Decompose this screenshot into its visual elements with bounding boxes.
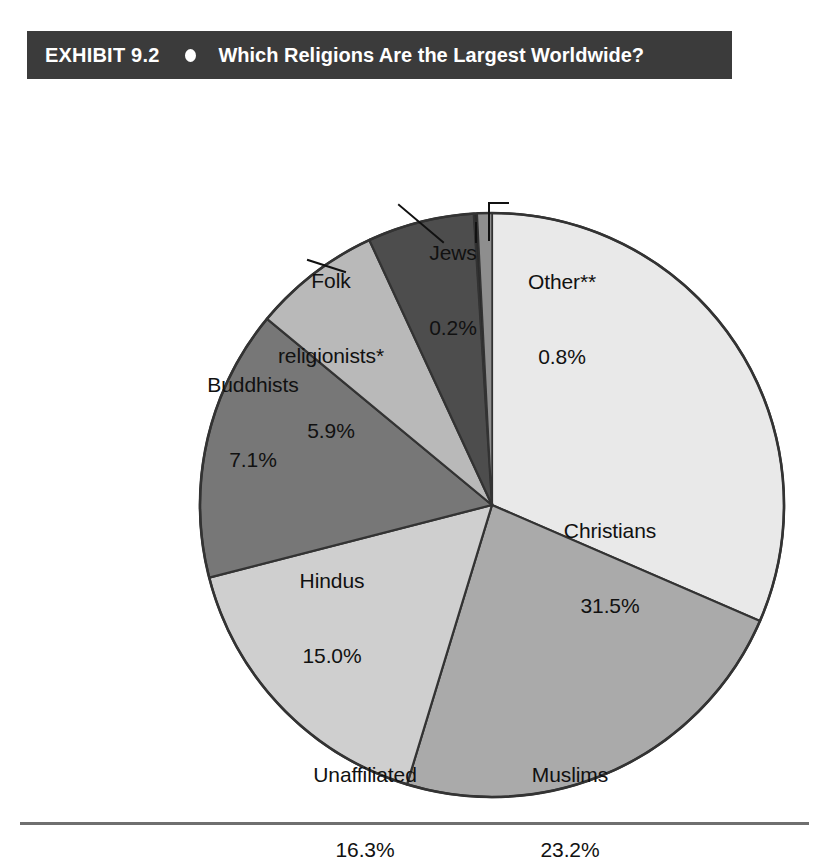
pie-label-muslims-value: 23.2% <box>500 837 640 861</box>
pie-label-unaffiliated-value: 16.3% <box>275 837 455 861</box>
pie-label-other: Other** 0.8% <box>502 219 622 419</box>
exhibit-number: EXHIBIT 9.2 <box>45 44 159 67</box>
exhibit-title: Which Religions Are the Largest Worldwid… <box>218 44 644 67</box>
pie-label-folk-religionists-line1: Folk <box>262 268 400 293</box>
pie-label-jews: Jews 0.2% <box>398 190 508 390</box>
exhibit-banner: EXHIBIT 9.2 Which Religions Are the Larg… <box>27 31 732 79</box>
pie-label-buddhists-name: Buddhists <box>178 372 328 397</box>
pie-label-hindus-name: Hindus <box>262 568 402 593</box>
filled-circle-icon <box>185 49 196 62</box>
pie-label-christians-name: Christians <box>530 518 690 543</box>
pie-label-jews-value: 0.2% <box>398 315 508 340</box>
bottom-divider <box>20 822 809 825</box>
pie-label-other-value: 0.8% <box>502 344 622 369</box>
pie-chart: Folk religionists* 5.9% Jews 0.2% Other*… <box>0 90 828 810</box>
pie-label-buddhists: Buddhists 7.1% <box>178 322 328 522</box>
pie-label-christians: Christians 31.5% <box>530 468 690 668</box>
pie-label-buddhists-value: 7.1% <box>178 447 328 472</box>
pie-label-jews-name: Jews <box>398 240 508 265</box>
pie-label-unaffiliated: Unaffiliated 16.3% <box>275 712 455 861</box>
pie-label-unaffiliated-name: Unaffiliated <box>275 762 455 787</box>
pie-label-hindus: Hindus 15.0% <box>262 518 402 718</box>
pie-label-christians-value: 31.5% <box>530 593 690 618</box>
pie-label-muslims: Muslims 23.2% <box>500 712 640 861</box>
pie-label-muslims-name: Muslims <box>500 762 640 787</box>
pie-label-hindus-value: 15.0% <box>262 643 402 668</box>
pie-label-other-name: Other** <box>502 269 622 294</box>
